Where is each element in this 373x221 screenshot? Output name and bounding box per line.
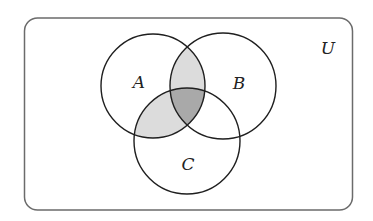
set-a-label: A [131, 72, 145, 92]
venn-diagram: A B C U [0, 0, 373, 221]
set-c-label: C [181, 154, 194, 174]
set-b-label: B [232, 73, 246, 93]
universe-label: U [321, 38, 336, 58]
